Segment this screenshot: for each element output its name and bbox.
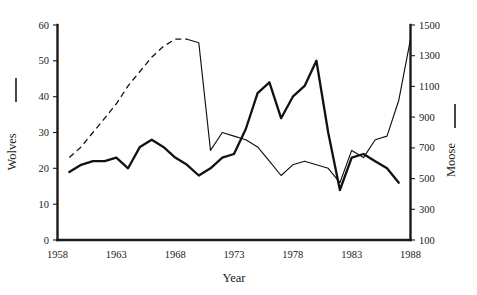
right-axis-title-group: Moose bbox=[444, 104, 458, 177]
y-tick-label-30: 30 bbox=[39, 127, 50, 138]
right-axis-title: Moose bbox=[444, 143, 458, 177]
y-tick-label-10: 10 bbox=[39, 199, 50, 210]
y-tick-label-50: 50 bbox=[39, 55, 50, 66]
y2-tick-label-1300: 1300 bbox=[419, 50, 440, 61]
x-tick-label-1963: 1963 bbox=[106, 249, 127, 260]
y2-tick-label-300: 300 bbox=[419, 204, 435, 215]
y-tick-label-60: 60 bbox=[39, 20, 50, 31]
left-axis-title-group: Wolves bbox=[5, 78, 19, 171]
x-tick-label-1988: 1988 bbox=[400, 249, 421, 260]
right-axis-group: 100 300 500 700 900 1100 1300 1500 bbox=[411, 20, 441, 246]
y2-tick-label-500: 500 bbox=[419, 173, 435, 184]
y-tick-label-40: 40 bbox=[39, 91, 50, 102]
wolf-moose-population-chart: 0 10 20 30 40 50 60 100 300 500 bbox=[0, 0, 477, 295]
x-tick-label-1968: 1968 bbox=[165, 249, 186, 260]
y2-tick-label-900: 900 bbox=[419, 112, 435, 123]
y2-tick-label-100: 100 bbox=[419, 235, 435, 246]
x-axis-title: Year bbox=[222, 271, 246, 285]
y-tick-label-20: 20 bbox=[39, 163, 50, 174]
y2-tick-label-1100: 1100 bbox=[419, 81, 440, 92]
y2-tick-label-1500: 1500 bbox=[419, 20, 440, 31]
x-axis-group: 1958 1963 1968 1973 1978 1983 1988 Year bbox=[47, 240, 421, 285]
series-wolves-line bbox=[69, 61, 399, 190]
x-tick-label-1958: 1958 bbox=[47, 249, 68, 260]
left-axis-title: Wolves bbox=[5, 133, 19, 170]
x-tick-label-1983: 1983 bbox=[341, 249, 362, 260]
series-moose-estimated-line bbox=[69, 39, 187, 157]
x-tick-label-1973: 1973 bbox=[224, 249, 245, 260]
data-series-group bbox=[69, 39, 410, 190]
left-axis-group: 0 10 20 30 40 50 60 bbox=[39, 20, 58, 246]
x-tick-label-1978: 1978 bbox=[282, 249, 303, 260]
chart-canvas: 0 10 20 30 40 50 60 100 300 500 bbox=[0, 0, 477, 295]
y2-tick-label-700: 700 bbox=[419, 142, 435, 153]
y-tick-label-0: 0 bbox=[44, 235, 49, 246]
